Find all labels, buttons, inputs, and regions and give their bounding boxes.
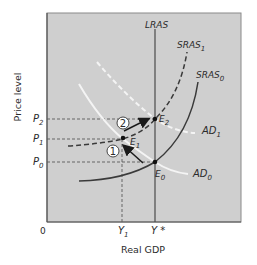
origin-label: 0 [40, 226, 46, 236]
y-tick-p2: P2 [33, 113, 44, 127]
step-marker-2: 2 [117, 117, 129, 129]
point-e1 [121, 136, 126, 141]
y-tick-p1: P1 [33, 133, 44, 147]
svg-text:1: 1 [110, 146, 116, 157]
y-tick-p0: P0 [33, 156, 44, 170]
x-tick-y1: Y1 [118, 225, 129, 239]
x-axis-title: Real GDP [121, 244, 165, 255]
ad-as-diagram: 1 2 LRAS SRAS1 SRAS0 AD1 AD0 E2 E1 E0 P2… [0, 0, 257, 265]
x-tick-ystar: Y * [151, 225, 165, 236]
y-axis-title: Price level [12, 73, 23, 122]
lras-label: LRAS [145, 20, 168, 30]
step-marker-1: 1 [107, 145, 119, 157]
point-e0 [153, 160, 158, 165]
point-e2 [153, 117, 158, 122]
svg-text:2: 2 [120, 118, 126, 129]
plot-panel [47, 13, 241, 222]
